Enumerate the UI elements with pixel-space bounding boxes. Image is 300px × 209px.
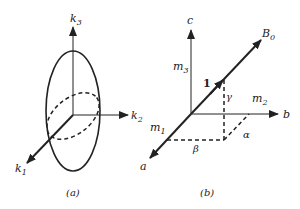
c-label: c [187,14,193,27]
panel-b-caption: (b) [200,187,214,198]
unit-label: 1 [203,77,211,90]
gamma-label: γ [226,91,232,102]
m3-label: m3 [173,60,189,75]
panel-b: c b a B0 1 m3 m2 m1 γ β α (b) [140,14,290,198]
panel-a: k3 k2 k1 (a) [15,12,143,198]
b0-label: B0 [261,27,275,42]
b0-vector [191,40,261,114]
k1-label: k1 [15,162,27,177]
panel-a-caption: (a) [66,187,80,198]
b-label: b [283,108,290,121]
figure-canvas: k3 k2 k1 (a) c b a B0 1 m3 m2 m1 γ β α (… [0,0,300,209]
a-label: a [140,160,147,173]
k3-label: k3 [70,12,82,27]
k2-label: k2 [131,109,143,124]
m1-label: m1 [150,121,166,136]
beta-label: β [192,143,199,154]
m2-label: m2 [252,92,268,107]
unit-vector [210,80,223,94]
alpha-label: α [243,129,250,140]
